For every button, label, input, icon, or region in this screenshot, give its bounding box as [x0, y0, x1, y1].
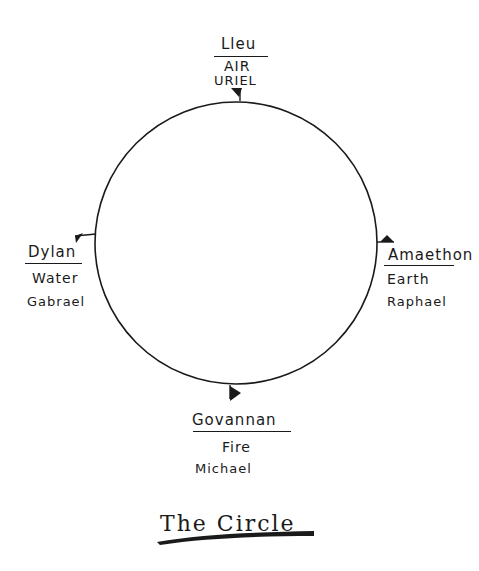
angel-label-bottom: Michael: [195, 462, 252, 475]
angel-label-right: Raphael: [387, 295, 447, 308]
flag-marker-left-icon: [75, 233, 96, 243]
element-label-right: Earth: [387, 272, 430, 286]
diagram-title: The Circle: [160, 513, 296, 535]
flag-marker-bottom-icon: [230, 385, 241, 401]
deity-label-left: Dylan: [28, 245, 76, 260]
angel-label-left: Gabrael: [27, 295, 85, 308]
flag-marker-right-icon: [377, 235, 394, 242]
angel-label-top: URIEL: [214, 74, 257, 87]
divider-top: [214, 56, 268, 57]
deity-label-top: Lleu: [221, 37, 256, 52]
element-label-left: Water: [32, 271, 78, 285]
divider-left: [25, 263, 82, 264]
element-label-bottom: Fire: [222, 440, 251, 454]
flag-marker-top-icon: [231, 88, 242, 101]
deity-label-bottom: Govannan: [192, 413, 277, 428]
divider-bottom: [193, 431, 291, 432]
divider-right: [384, 265, 454, 266]
the-circle: [95, 102, 377, 384]
element-label-top: AIR: [224, 59, 250, 73]
deity-label-right: Amaethon: [388, 248, 473, 263]
